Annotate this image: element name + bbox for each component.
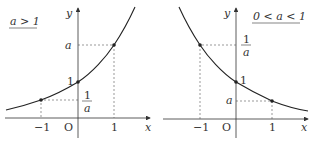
guide-1-over-a xyxy=(41,100,78,118)
x-label: x xyxy=(301,121,308,134)
guide-1-over-a xyxy=(200,45,236,119)
graph-a-between-0-and-1: 0 < a < 1 y x O −1 1 1 a 1 a xyxy=(163,7,308,138)
frac-num: 1 xyxy=(243,33,250,46)
y-label: y xyxy=(223,7,231,20)
point-neg1 xyxy=(198,43,202,47)
graph-a-greater-than-1: a > 1 y x O −1 1 1 a 1 a xyxy=(5,7,152,138)
point-0 xyxy=(76,80,80,84)
condition-label: a > 1 xyxy=(10,15,40,28)
point-1 xyxy=(270,99,274,103)
x-label: x xyxy=(145,121,152,134)
tick-neg1: −1 xyxy=(193,121,209,134)
guide-a xyxy=(236,101,272,119)
frac-num: 1 xyxy=(84,89,91,102)
y-label: y xyxy=(65,7,73,20)
point-neg1 xyxy=(39,98,43,102)
tick-neg1: −1 xyxy=(34,121,50,134)
tick-1: 1 xyxy=(111,121,118,134)
frac-den: a xyxy=(84,102,91,115)
y-tick-1: 1 xyxy=(67,75,74,88)
condition-label: 0 < a < 1 xyxy=(253,10,306,23)
exponential-graphs: a > 1 y x O −1 1 1 a 1 a 0 < a < 1 y x O… xyxy=(0,0,310,142)
frac-den: a xyxy=(243,46,250,59)
origin-label: O xyxy=(222,121,231,134)
y-tick-a: a xyxy=(226,94,233,107)
origin-label: O xyxy=(64,121,73,134)
point-1 xyxy=(112,43,116,47)
y-tick-1: 1 xyxy=(240,74,247,87)
tick-1: 1 xyxy=(269,121,276,134)
y-tick-a: a xyxy=(65,39,72,52)
point-0 xyxy=(234,80,238,84)
